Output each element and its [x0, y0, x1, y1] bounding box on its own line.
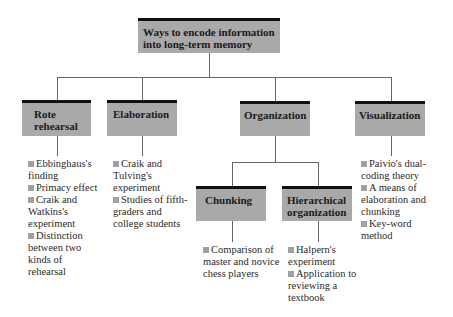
- node-rote-rehearsal: Rote rehearsal: [22, 100, 91, 136]
- connector-chunking-list: [232, 221, 233, 242]
- list-chunking: Comparison of master and novice chess pl…: [203, 244, 283, 280]
- connector-root-vertical: [209, 53, 210, 77]
- connector-rote-list: [57, 136, 58, 156]
- node-label: Elaboration: [113, 108, 177, 120]
- connector-visualization-list: [391, 136, 392, 156]
- node-label: Organization: [244, 109, 310, 121]
- square-bullet-icon: [28, 233, 34, 239]
- square-bullet-icon: [28, 161, 34, 167]
- list-item: Studies of fifth-graders and college stu…: [113, 194, 193, 230]
- list-item: Distinction between two kinds of rehears…: [28, 230, 100, 278]
- node-visualization: Visualization: [355, 101, 425, 136]
- node-hierarchical-organization: Hierarchical organization: [282, 186, 352, 221]
- connector-organization-down: [275, 136, 276, 163]
- list-rote-rehearsal: Ebbinghaus's finding Primacy effect Crai…: [28, 158, 100, 278]
- connector-elaboration: [142, 77, 143, 100]
- connector-organization: [275, 77, 276, 101]
- square-bullet-icon: [28, 185, 34, 191]
- connector-hierarchical-list: [318, 221, 319, 242]
- square-bullet-icon: [203, 247, 209, 253]
- list-item: Craik and Tulving's experiment: [113, 158, 193, 194]
- node-label: rehearsal: [34, 120, 91, 132]
- list-item: Comparison of master and novice chess pl…: [203, 244, 283, 280]
- connector-elaboration-list: [142, 136, 143, 156]
- square-bullet-icon: [361, 161, 367, 167]
- list-item: Halpern's experiment: [288, 244, 358, 268]
- list-item: Paivio's dual-coding theory: [361, 158, 433, 182]
- root-label-line2: into long-term memory: [143, 38, 280, 50]
- node-label: Rote: [34, 108, 91, 120]
- list-visualization: Paivio's dual-coding theory A means of e…: [361, 158, 433, 242]
- connector-chunking: [232, 162, 233, 186]
- square-bullet-icon: [288, 271, 294, 277]
- connector-hierarchical: [318, 162, 319, 186]
- square-bullet-icon: [28, 197, 34, 203]
- list-item: A means of elaboration and chunking: [361, 182, 433, 218]
- node-label: Hierarchical: [287, 194, 352, 206]
- square-bullet-icon: [113, 161, 119, 167]
- list-item: Primacy effect: [28, 182, 100, 194]
- node-chunking: Chunking: [196, 186, 266, 221]
- connector-rote: [57, 77, 58, 100]
- list-item: Craik and Watkins's experiment: [28, 194, 100, 230]
- connector-level1-horizontal: [57, 77, 392, 78]
- node-label: Visualization: [359, 109, 425, 121]
- square-bullet-icon: [361, 221, 367, 227]
- square-bullet-icon: [288, 247, 294, 253]
- node-label: organization: [287, 206, 352, 218]
- list-item: Ebbinghaus's finding: [28, 158, 100, 182]
- list-item: Application to reviewing a textbook: [288, 268, 358, 304]
- node-organization: Organization: [240, 101, 310, 136]
- square-bullet-icon: [113, 197, 119, 203]
- list-elaboration: Craik and Tulving's experiment Studies o…: [113, 158, 193, 230]
- root-node: Ways to encode information into long-ter…: [138, 18, 280, 53]
- list-hierarchical: Halpern's experiment Application to revi…: [288, 244, 358, 304]
- root-label-line1: Ways to encode information: [143, 26, 280, 38]
- square-bullet-icon: [361, 185, 367, 191]
- list-item: Key-word method: [361, 218, 433, 242]
- node-label: Chunking: [205, 194, 266, 206]
- connector-visualization: [391, 77, 392, 101]
- node-elaboration: Elaboration: [107, 100, 177, 136]
- connector-organization-horizontal: [232, 162, 319, 163]
